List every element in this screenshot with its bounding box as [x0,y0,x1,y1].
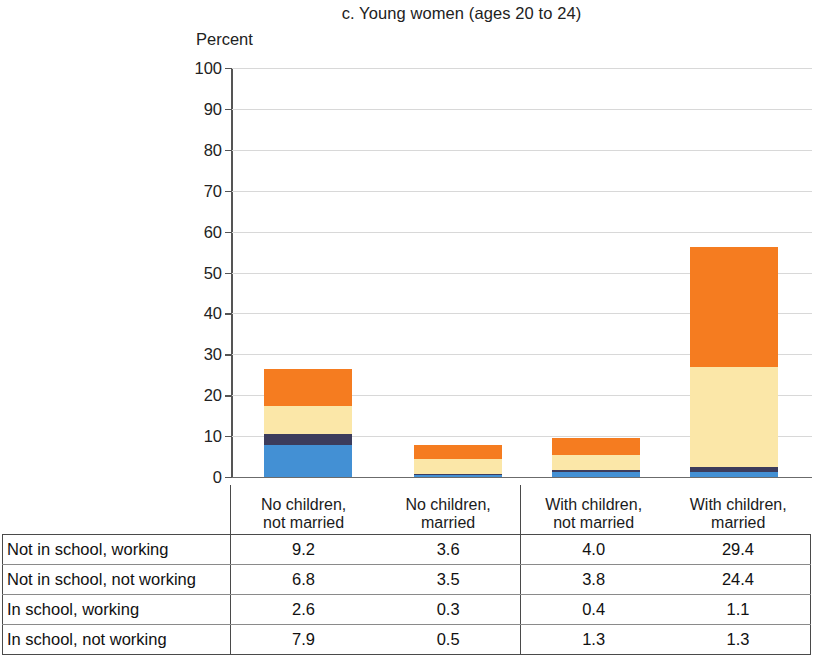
column-header-line2: not married [231,514,376,531]
table-cell: 1.3 [521,625,666,655]
y-tick-label-80: 80 [176,140,222,159]
bar-segment [690,247,778,367]
column-header-line2: married [376,514,521,531]
table-row-label: Not in school, not working [3,565,231,595]
y-axis-tick-labels: 0102030405060708090100 [176,68,222,477]
bar-segment [690,472,778,477]
figure-title: c. Young women (ages 20 to 24) [0,4,813,23]
table-row: In school, working2.60.30.41.1 [3,595,811,625]
column-header-line1: No children, [231,496,376,513]
y-tick-label-10: 10 [176,427,222,446]
y-tick-label-100: 100 [176,59,222,78]
table-cell: 6.8 [231,565,376,595]
y-tick-100 [225,68,232,69]
table-cell: 1.1 [666,595,811,625]
column-header-line1: No children, [376,496,521,513]
table-column-header-4: With children,married [666,485,811,535]
bar-segment [264,445,352,477]
column-header-line2: not married [521,514,666,531]
bar-segment [264,434,352,445]
bar-segment [552,472,640,477]
table-cell: 4.0 [521,535,666,565]
table-cell: 29.4 [666,535,811,565]
bar-segment [414,475,502,477]
column-header-line2: married [666,514,811,531]
column-header-line1: With children, [666,496,811,513]
table-cell: 9.2 [231,535,376,565]
gridline-60 [232,232,812,233]
table-cell: 1.3 [666,625,811,655]
y-tick-40 [225,313,232,314]
bar-1 [264,369,352,477]
gridline-90 [232,109,812,110]
table-row-label: In school, working [3,595,231,625]
y-tick-80 [225,150,232,151]
gridline-100 [232,68,812,69]
table-row: Not in school, working9.23.64.029.4 [3,535,811,565]
table-row-label: Not in school, working [3,535,231,565]
bar-segment [690,367,778,467]
bar-4 [690,247,778,477]
bar-2 [414,445,502,477]
table-cell: 3.8 [521,565,666,595]
y-tick-label-70: 70 [176,181,222,200]
table-row: Not in school, not working6.83.53.824.4 [3,565,811,595]
bar-segment [414,445,502,460]
y-tick-label-40: 40 [176,304,222,323]
table-cell: 3.5 [376,565,521,595]
table-corner-cell [3,485,231,535]
bar-segment [414,459,502,473]
table-cell: 0.4 [521,595,666,625]
y-tick-label-0: 0 [176,468,222,487]
table-column-header-3: With children,not married [521,485,666,535]
bar-3 [552,438,640,477]
table-cell: 3.6 [376,535,521,565]
y-tick-label-30: 30 [176,345,222,364]
y-tick-label-50: 50 [176,263,222,282]
y-tick-label-20: 20 [176,386,222,405]
gridline-80 [232,150,812,151]
table-column-header-1: No children,not married [231,485,376,535]
gridline-70 [232,191,812,192]
y-axis-title: Percent [196,30,253,49]
bar-segment [552,438,640,454]
table-cell: 24.4 [666,565,811,595]
column-header-line1: With children, [521,496,666,513]
table-row-label: In school, not working [3,625,231,655]
y-tick-30 [225,354,232,355]
plot-area [232,68,812,477]
gridline-0 [232,477,812,478]
y-tick-0 [225,477,232,478]
table-cell: 0.5 [376,625,521,655]
data-table: No children,not marriedNo children,marri… [2,485,811,655]
bar-segment [552,455,640,471]
y-tick-20 [225,395,232,396]
data-table-body: No children,not marriedNo children,marri… [3,485,811,655]
y-tick-50 [225,273,232,274]
table-header-row: No children,not marriedNo children,marri… [3,485,811,535]
y-tick-90 [225,109,232,110]
bar-segment [264,406,352,434]
table-cell: 7.9 [231,625,376,655]
y-tick-label-60: 60 [176,222,222,241]
y-tick-70 [225,191,232,192]
y-tick-10 [225,436,232,437]
y-tick-label-90: 90 [176,99,222,118]
table-cell: 2.6 [231,595,376,625]
table-row: In school, not working7.90.51.31.3 [3,625,811,655]
table-cell: 0.3 [376,595,521,625]
bar-segment [264,369,352,407]
table-column-header-2: No children,married [376,485,521,535]
y-tick-60 [225,232,232,233]
